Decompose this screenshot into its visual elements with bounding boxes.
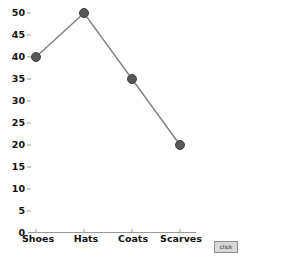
y-tick-label-30: 30 [12, 95, 26, 106]
y-tick-label-40: 40 [12, 51, 26, 62]
click-button[interactable]: click [214, 241, 238, 253]
x-tick-label-shoes: Shoes [22, 233, 55, 244]
data-point-scarves[interactable] [176, 141, 185, 150]
y-tick-label-45: 45 [12, 29, 25, 40]
y-tick-label-35: 35 [12, 73, 25, 84]
x-tick-label-scarves: Scarves [160, 233, 202, 244]
data-point-hats[interactable] [80, 9, 89, 18]
y-tick-label-15: 15 [12, 161, 25, 172]
y-tick-label-50: 50 [12, 7, 26, 18]
data-point-shoes[interactable] [32, 53, 41, 62]
y-tick-label-20: 20 [12, 139, 26, 150]
x-tick-label-coats: Coats [118, 233, 148, 244]
data-point-coats[interactable] [128, 75, 137, 84]
chart-canvas: 50 45 40 35 30 25 20 15 10 5 0 [0, 0, 289, 260]
series-line-1 [36, 13, 180, 145]
x-tick-label-hats: Hats [74, 233, 99, 244]
x-axis-labels: Shoes Hats Coats Scarves [22, 233, 202, 244]
y-axis-labels: 50 45 40 35 30 25 20 15 10 5 0 [12, 7, 26, 238]
series-markers [32, 9, 185, 150]
y-tick-label-25: 25 [12, 117, 25, 128]
y-tick-label-5: 5 [18, 205, 25, 216]
y-tick-label-10: 10 [12, 183, 26, 194]
line-chart: 50 45 40 35 30 25 20 15 10 5 0 [0, 0, 289, 260]
y-axis-ticks [27, 13, 31, 211]
